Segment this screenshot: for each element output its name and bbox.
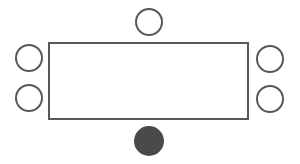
- table: [49, 43, 248, 119]
- seat-top: [136, 9, 162, 35]
- diagram-canvas: [0, 0, 300, 164]
- seating-diagram: [0, 0, 300, 164]
- seat-bottom-highlighted: [135, 127, 163, 155]
- seat-left-upper: [16, 45, 42, 71]
- seat-right-lower: [257, 86, 283, 112]
- seat-left-lower: [16, 85, 42, 111]
- seat-right-upper: [257, 46, 283, 72]
